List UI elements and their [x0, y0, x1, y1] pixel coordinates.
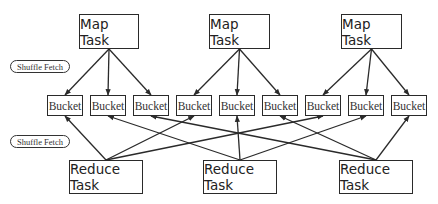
- map-to-bucket-arrow: [366, 49, 372, 95]
- shuffle-fetch-label-top: Shuffle Fetch: [10, 60, 70, 73]
- shuffle-fetch-arrow: [108, 116, 240, 160]
- reduce-task-1: Reduce Task: [69, 160, 143, 194]
- map-to-bucket-arrow: [237, 49, 240, 95]
- shuffle-fetch-arrow: [280, 116, 376, 160]
- bucket-6: Bucket: [262, 95, 298, 116]
- shuffle-fetch-arrow: [151, 116, 376, 160]
- map-to-bucket-arrow: [323, 49, 372, 95]
- shuffle-fetch-arrow: [237, 116, 240, 160]
- bucket-8: Bucket: [348, 95, 384, 116]
- bucket-9: Bucket: [391, 95, 427, 116]
- map-to-bucket-arrow: [194, 49, 240, 95]
- bucket-3: Bucket: [133, 95, 169, 116]
- map-to-bucket-arrow: [109, 49, 151, 95]
- map-task-1: Map Task: [79, 14, 139, 49]
- map-to-bucket-arrow: [108, 49, 109, 95]
- reduce-task-3: Reduce Task: [339, 160, 413, 194]
- bucket-1: Bucket: [47, 95, 83, 116]
- shuffle-fetch-label-bottom: Shuffle Fetch: [10, 135, 70, 148]
- shuffle-fetch-arrow: [106, 116, 323, 160]
- bucket-2: Bucket: [90, 95, 126, 116]
- map-to-bucket-arrow: [65, 49, 109, 95]
- shuffle-fetch-arrow: [106, 116, 194, 160]
- mapreduce-diagram: Shuffle Fetch Shuffle Fetch Map Task Map…: [0, 0, 438, 204]
- reduce-task-2: Reduce Task: [203, 160, 277, 194]
- bucket-5: Bucket: [219, 95, 255, 116]
- bucket-7: Bucket: [305, 95, 341, 116]
- shuffle-fetch-arrow: [376, 116, 409, 160]
- shuffle-fetch-arrow: [240, 116, 366, 160]
- bucket-4: Bucket: [176, 95, 212, 116]
- map-task-2: Map Task: [209, 14, 270, 49]
- map-task-3: Map Task: [341, 14, 402, 49]
- shuffle-fetch-arrow: [65, 116, 106, 160]
- map-to-bucket-arrow: [240, 49, 281, 95]
- map-to-bucket-arrow: [372, 49, 410, 95]
